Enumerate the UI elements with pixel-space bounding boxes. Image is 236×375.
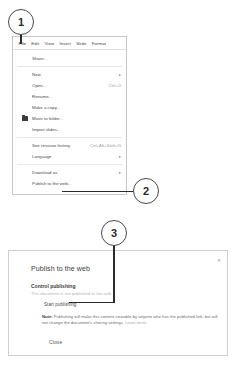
submenu-arrow-icon: ▸ xyxy=(119,154,121,159)
menu-item-move-to-folder[interactable]: Move to folder... xyxy=(13,113,126,124)
callout-2-leader-line xyxy=(62,191,134,193)
menu-item-share[interactable]: Share... xyxy=(13,53,126,64)
menu-item-language[interactable]: Language ▸ xyxy=(13,151,126,162)
callout-3: 3 xyxy=(101,220,127,246)
callout-1-leader-line xyxy=(20,34,22,44)
menu-bar-item-edit[interactable]: Edit xyxy=(29,41,42,46)
callout-2-number: 2 xyxy=(143,186,149,197)
menu-item-see-revision-history[interactable]: See revision history Ctrl+Alt+Shift+G xyxy=(13,140,126,151)
note-prefix: Note: xyxy=(42,314,53,319)
menu-item-label: Download as xyxy=(32,170,57,175)
callout-3-leader-line-vertical xyxy=(113,245,115,302)
menu-separator xyxy=(17,164,122,165)
learn-more-link[interactable]: Learn more xyxy=(125,320,146,325)
close-icon[interactable]: ✕ xyxy=(216,258,221,263)
submenu-arrow-icon: ▸ xyxy=(119,170,121,175)
menu-item-label: Make a copy... xyxy=(32,105,60,110)
publish-status-text: This document is not published to the we… xyxy=(31,291,112,296)
menu-item-label: New xyxy=(32,72,41,77)
menu-item-shortcut: Ctrl+O xyxy=(108,83,121,88)
publish-note-text: Note: Publishing will make this content … xyxy=(42,314,218,326)
publish-to-the-web-dialog: ✕ Publish to the web Control publishing … xyxy=(8,250,228,356)
menu-item-import-slides[interactable]: Import slides... xyxy=(13,124,126,135)
menu-bar-item-view[interactable]: View xyxy=(42,41,57,46)
menu-item-make-a-copy[interactable]: Make a copy... xyxy=(13,102,126,113)
menu-item-label: Share... xyxy=(32,56,47,61)
menu-item-label: Language xyxy=(32,154,52,159)
callout-1: 1 xyxy=(8,9,34,35)
menu-item-rename[interactable]: Rename... xyxy=(13,91,126,102)
callout-1-number: 1 xyxy=(18,17,24,28)
menu-item-label: Publish to the web... xyxy=(32,181,72,186)
menu-item-label: See revision history xyxy=(32,143,70,148)
menu-bar-item-format[interactable]: Format xyxy=(89,41,109,46)
menu-item-label: Move to folder... xyxy=(32,116,63,121)
submenu-arrow-icon: ▸ xyxy=(119,72,121,77)
menu-item-download-as[interactable]: Download as ▸ xyxy=(13,167,126,178)
menu-item-label: Open... xyxy=(32,83,46,88)
folder-icon xyxy=(22,116,28,121)
menu-bar: File Edit View Insert Slide Format xyxy=(13,37,126,50)
menu-item-label: Rename... xyxy=(32,94,52,99)
menu-item-new[interactable]: New ▸ xyxy=(13,69,126,80)
menu-item-label: Import slides... xyxy=(32,127,61,132)
callout-3-leader-line-horizontal xyxy=(69,302,115,304)
menu-bar-item-file[interactable]: File xyxy=(16,41,29,46)
dialog-title: Publish to the web xyxy=(31,265,90,272)
close-button[interactable]: Close xyxy=(49,339,62,345)
menu-bar-item-slide[interactable]: Slide xyxy=(74,41,89,46)
callout-3-number: 3 xyxy=(111,228,117,239)
file-menu-list: Share... New ▸ Open... Ctrl+O Rename... … xyxy=(13,50,126,189)
callout-2: 2 xyxy=(133,178,159,204)
menu-item-shortcut: Ctrl+Alt+Shift+G xyxy=(90,143,121,148)
file-menu-panel: File Edit View Insert Slide Format Share… xyxy=(12,36,127,195)
menu-bar-item-insert[interactable]: Insert xyxy=(57,41,74,46)
menu-item-open[interactable]: Open... Ctrl+O xyxy=(13,80,126,91)
menu-separator xyxy=(17,137,122,138)
menu-separator xyxy=(17,66,122,67)
menu-item-publish-to-the-web[interactable]: Publish to the web... xyxy=(13,178,126,189)
control-publishing-heading: Control publishing xyxy=(31,283,75,289)
